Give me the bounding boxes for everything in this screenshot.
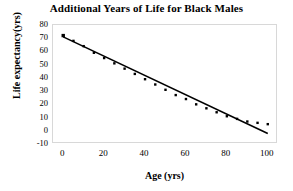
data-point [246, 120, 248, 122]
x-tick-label: 20 [88, 148, 118, 158]
y-axis-tick-labels: -1001020304050607080 [0, 0, 52, 191]
chart-figure: Additional Years of Life for Black Males… [0, 0, 293, 191]
data-point [93, 52, 95, 54]
data-point [154, 83, 156, 85]
data-point [72, 40, 74, 42]
x-axis-label: Age (yrs) [52, 170, 277, 181]
data-point [82, 45, 84, 47]
data-points [62, 34, 269, 125]
x-tick-label: 40 [129, 148, 159, 158]
y-tick-label: -10 [6, 139, 52, 148]
data-point [62, 34, 65, 37]
y-tick-label: 0 [6, 126, 52, 135]
data-point [267, 123, 269, 125]
data-point [205, 107, 207, 109]
data-point [256, 122, 258, 124]
x-tick-label: 100 [252, 148, 282, 158]
x-tick-label: 0 [47, 148, 77, 158]
data-point [215, 111, 217, 113]
data-point [123, 67, 125, 69]
data-point [236, 118, 238, 120]
y-tick-label: 80 [6, 20, 52, 29]
y-tick-label: 20 [6, 99, 52, 108]
data-point [185, 98, 187, 100]
y-tick-label: 60 [6, 46, 52, 55]
x-tick-label: 60 [170, 148, 200, 158]
data-point [226, 115, 228, 117]
y-tick-label: 50 [6, 60, 52, 69]
x-tick-label: 80 [211, 148, 241, 158]
plot-area [52, 24, 277, 143]
y-tick-label: 40 [6, 73, 52, 82]
data-point [113, 62, 115, 64]
plot-svg [53, 25, 278, 144]
y-tick-label: 10 [6, 113, 52, 122]
data-point [195, 103, 197, 105]
data-point [134, 73, 136, 75]
y-tick-label: 70 [6, 33, 52, 42]
data-point [103, 57, 105, 59]
y-tick-label: 30 [6, 86, 52, 95]
x-axis-tick-labels: 020406080100 [0, 148, 293, 162]
data-point [164, 89, 166, 91]
data-point [144, 78, 146, 80]
data-point [175, 94, 177, 96]
